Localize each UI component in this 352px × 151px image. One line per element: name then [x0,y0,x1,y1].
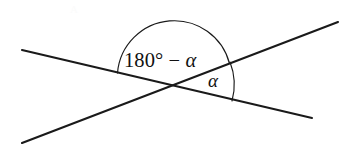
supplementary-angle-alpha-symbol: α [185,49,196,71]
acute-angle-label: α [208,71,218,90]
watermark-mark: A [70,3,84,17]
line-ascending [22,22,338,143]
supplementary-angle-label: 180° − α [124,50,196,71]
geometry-canvas [0,0,352,151]
supplementary-angle-text: 180° − [124,49,185,71]
acute-angle-arc [230,62,234,101]
geometry-diagram: 180° − α α A [0,0,352,151]
